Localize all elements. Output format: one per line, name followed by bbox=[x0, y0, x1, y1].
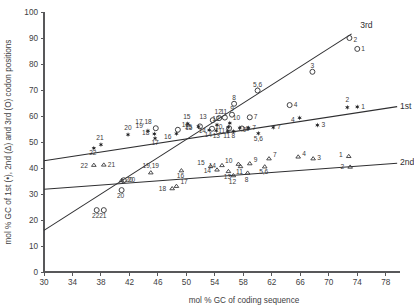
x-tick-label: 74 bbox=[353, 278, 363, 287]
data-point bbox=[126, 132, 131, 137]
data-point-label: 3 bbox=[321, 121, 325, 128]
data-point bbox=[347, 36, 352, 41]
trendline-label-1st: 1st bbox=[400, 101, 412, 111]
data-point bbox=[310, 69, 315, 74]
data-point-label: 8 bbox=[232, 94, 236, 101]
data-point-label: 10 bbox=[225, 157, 233, 164]
data-point bbox=[255, 88, 260, 93]
x-tick-label: 66 bbox=[296, 278, 306, 287]
data-point-label: 7 bbox=[254, 113, 258, 120]
data-point bbox=[287, 103, 292, 108]
trendline-label-3rd: 3rd bbox=[360, 20, 373, 30]
data-point-label: 5,6 bbox=[254, 135, 263, 142]
data-point-label: 11 bbox=[218, 127, 225, 134]
trendline-label-2nd: 2nd bbox=[400, 157, 414, 167]
y-tick-label: 20 bbox=[29, 216, 39, 225]
x-tick-label: 78 bbox=[381, 278, 391, 287]
data-point-label: 7 bbox=[277, 123, 281, 130]
x-tick-label: 70 bbox=[324, 278, 334, 287]
data-point bbox=[92, 163, 97, 166]
data-point-label: 15 bbox=[185, 123, 193, 130]
y-tick-label: 90 bbox=[29, 34, 39, 43]
x-axis-title: mol % GC of coding sequence bbox=[189, 296, 300, 305]
data-point-label: 1 bbox=[339, 151, 343, 158]
data-point-label: 16 bbox=[164, 133, 172, 140]
y-tick-label: 30 bbox=[29, 190, 39, 199]
data-point-label: 3 bbox=[317, 154, 321, 161]
x-tick-label: 50 bbox=[182, 278, 192, 287]
data-point-label: 5,6 bbox=[259, 168, 268, 175]
data-point bbox=[296, 155, 301, 158]
data-point-label: 1 bbox=[361, 45, 365, 52]
data-point-label: 11 bbox=[236, 168, 243, 175]
trendline-2nd bbox=[44, 163, 397, 189]
data-point-label: 1 bbox=[361, 103, 365, 110]
x-tick-label: 62 bbox=[267, 278, 277, 287]
chart-container: 0102030405060708090100303438424650545862… bbox=[0, 0, 414, 308]
data-point bbox=[226, 169, 231, 172]
data-point bbox=[247, 162, 252, 165]
data-point bbox=[345, 105, 350, 110]
data-point-label: 22 bbox=[89, 149, 97, 156]
y-tick-label: 10 bbox=[29, 242, 39, 251]
data-point-label: 21 bbox=[96, 134, 104, 141]
data-point bbox=[245, 171, 250, 174]
data-point-label: 20 bbox=[117, 192, 125, 199]
y-tick-label: 40 bbox=[29, 164, 39, 173]
data-point-label: 18 bbox=[159, 185, 167, 192]
data-point-label: 2 bbox=[353, 36, 357, 43]
data-point-label: 4 bbox=[294, 101, 298, 108]
data-point-label: 15 bbox=[197, 159, 205, 166]
data-point-label: 5,6 bbox=[253, 81, 262, 88]
data-point-label: 20 bbox=[128, 176, 136, 183]
x-tick-label: 30 bbox=[39, 278, 49, 287]
data-point-label: 19,19 bbox=[143, 162, 160, 169]
data-point bbox=[222, 115, 227, 120]
x-tick-label: 58 bbox=[239, 278, 249, 287]
data-point-label: 14 bbox=[199, 127, 207, 134]
data-point bbox=[315, 123, 320, 128]
data-point bbox=[297, 115, 302, 120]
data-point-label: 14 bbox=[209, 162, 217, 169]
data-point-label: 15 bbox=[183, 113, 191, 120]
data-point-label: 4 bbox=[291, 116, 295, 123]
y-tick-label: 70 bbox=[29, 86, 39, 95]
data-point bbox=[152, 131, 157, 136]
y-tick-label: 50 bbox=[29, 138, 39, 147]
data-point-label: 12 bbox=[229, 178, 237, 185]
data-point-label: 7 bbox=[252, 124, 256, 131]
data-point-label: 9 bbox=[246, 125, 250, 132]
data-point-label: 7 bbox=[273, 151, 277, 158]
y-tick-label: 60 bbox=[29, 112, 39, 121]
y-tick-label: 100 bbox=[24, 8, 38, 17]
x-tick-label: 38 bbox=[96, 278, 106, 287]
data-point-label: 9 bbox=[254, 156, 258, 163]
data-point-label: 8 bbox=[232, 132, 236, 139]
series-2: 22212019,1918171615141413121011895,67431… bbox=[80, 150, 352, 193]
data-point bbox=[311, 157, 316, 160]
axes-layer: 0102030405060708090100303438424650545862… bbox=[24, 8, 400, 287]
x-tick-label: 42 bbox=[125, 278, 135, 287]
data-point-label: 22 bbox=[80, 162, 88, 169]
data-point-label: 11 bbox=[220, 108, 227, 115]
data-point-label: 21 bbox=[99, 212, 107, 219]
data-point bbox=[355, 46, 360, 51]
data-points-layer: 2221201918171615151413121110108975,67432… bbox=[80, 36, 365, 220]
data-point-label: 21 bbox=[108, 161, 116, 168]
data-point bbox=[170, 187, 175, 190]
data-point bbox=[220, 163, 225, 166]
data-point-label: 8 bbox=[245, 176, 249, 183]
x-tick-label: 34 bbox=[68, 278, 78, 287]
data-point bbox=[153, 126, 158, 131]
data-point-label: 2 bbox=[345, 96, 349, 103]
data-point bbox=[210, 126, 215, 131]
data-point-label: 13 bbox=[199, 113, 207, 120]
data-point-label: 17,18 bbox=[135, 118, 152, 125]
data-point bbox=[262, 165, 267, 168]
y-tick-label: 80 bbox=[29, 60, 39, 69]
data-point-label: 17 bbox=[151, 139, 159, 146]
data-point bbox=[101, 163, 106, 166]
data-point bbox=[174, 184, 179, 187]
x-tick-label: 46 bbox=[153, 278, 163, 287]
data-point-label: 18 bbox=[142, 129, 150, 136]
